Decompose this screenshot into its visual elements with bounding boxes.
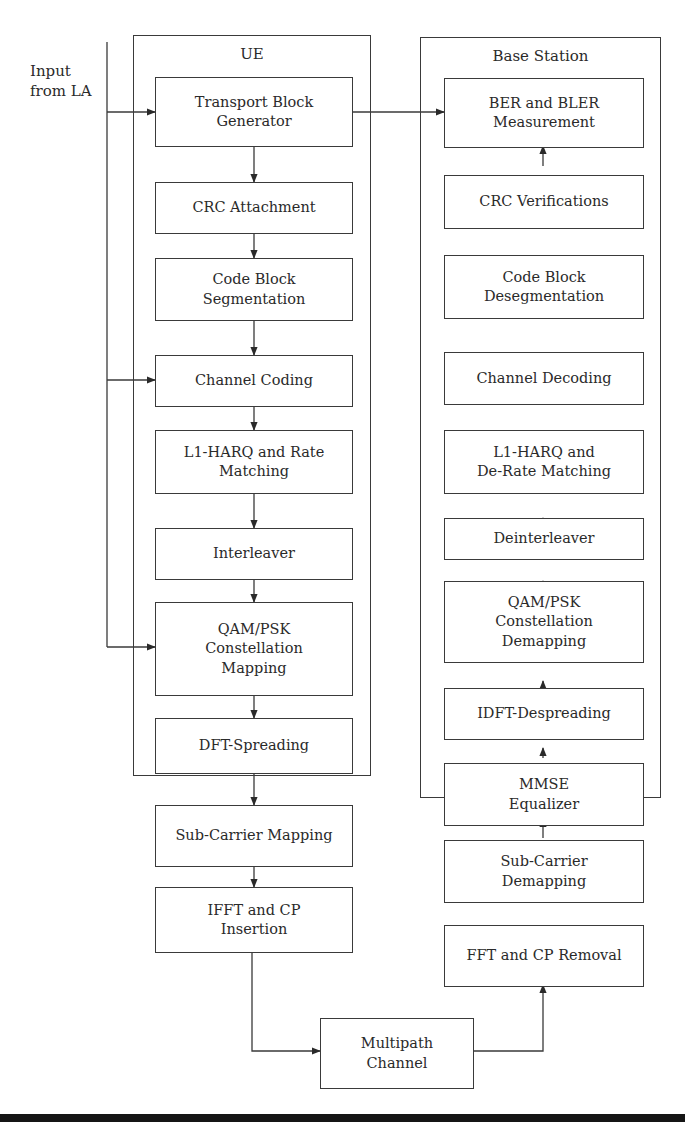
bottom-rule bbox=[0, 1114, 685, 1122]
transport-block-generator: Transport Block Generator bbox=[155, 77, 353, 147]
fft-cp-removal: FFT and CP Removal bbox=[444, 925, 644, 987]
l1-harq-rate-matching: L1-HARQ and Rate Matching bbox=[155, 430, 353, 494]
input-from-la-label: Input from LA bbox=[30, 62, 92, 101]
code-block-desegmentation: Code Block Desegmentation bbox=[444, 255, 644, 319]
ifft-cp-insertion: IFFT and CP Insertion bbox=[155, 887, 353, 953]
qam-psk-constellation-mapping: QAM/PSK Constellation Mapping bbox=[155, 602, 353, 696]
base-station-title: Base Station bbox=[421, 47, 660, 65]
ue-title: UE bbox=[134, 45, 370, 63]
crc-attachment: CRC Attachment bbox=[155, 182, 353, 234]
qam-psk-constellation-demapping: QAM/PSK Constellation Demapping bbox=[444, 581, 644, 663]
dft-spreading: DFT-Spreading bbox=[155, 718, 353, 774]
deinterleaver: Deinterleaver bbox=[444, 518, 644, 560]
sub-carrier-demapping: Sub-Carrier Demapping bbox=[444, 840, 644, 903]
code-block-segmentation: Code Block Segmentation bbox=[155, 258, 353, 321]
channel-coding: Channel Coding bbox=[155, 355, 353, 407]
ber-bler-measurement: BER and BLER Measurement bbox=[444, 78, 644, 148]
mmse-equalizer: MMSE Equalizer bbox=[444, 763, 644, 826]
crc-verifications: CRC Verifications bbox=[444, 175, 644, 229]
l1-harq-de-rate-matching: L1-HARQ and De-Rate Matching bbox=[444, 430, 644, 494]
channel-decoding: Channel Decoding bbox=[444, 352, 644, 405]
base-station-container: Base Station bbox=[420, 37, 661, 798]
interleaver: Interleaver bbox=[155, 528, 353, 580]
multipath-channel: Multipath Channel bbox=[320, 1018, 474, 1089]
idft-despreading: IDFT-Despreading bbox=[444, 688, 644, 740]
sub-carrier-mapping: Sub-Carrier Mapping bbox=[155, 805, 353, 867]
